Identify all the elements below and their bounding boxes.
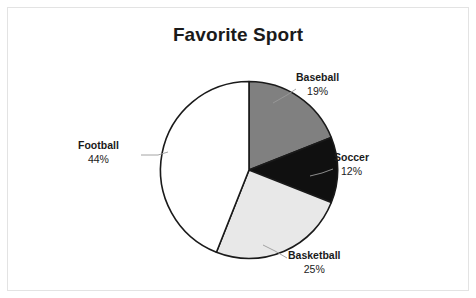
slice-label-baseball-value: 19% — [296, 84, 339, 98]
slice-label-basketball-name: Basketball — [288, 248, 341, 262]
slice-label-basketball: Basketball 25% — [288, 248, 341, 276]
slice-label-football: Football 44% — [78, 138, 119, 166]
pie-chart-figure: Favorite Sport Baseball 19% Soccer 12% B… — [0, 0, 476, 298]
pie-graphic — [0, 0, 476, 298]
slice-label-soccer-name: Soccer — [334, 150, 369, 164]
slice-label-basketball-value: 25% — [288, 262, 341, 276]
slice-label-football-name: Football — [78, 138, 119, 152]
slice-label-baseball: Baseball 19% — [296, 70, 339, 98]
pie-slice-group — [160, 82, 337, 259]
slice-label-football-value: 44% — [78, 152, 119, 166]
slice-label-baseball-name: Baseball — [296, 70, 339, 84]
slice-label-soccer-value: 12% — [334, 164, 369, 178]
slice-label-soccer: Soccer 12% — [334, 150, 369, 178]
